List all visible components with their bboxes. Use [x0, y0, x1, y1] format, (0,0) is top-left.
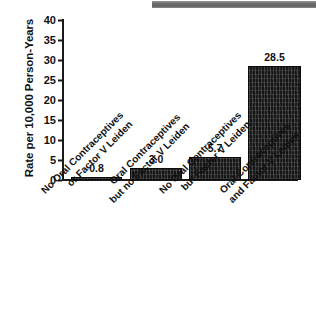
y-tick-mark [58, 159, 62, 161]
y-tick-mark [58, 139, 62, 141]
y-tick-label: 20 [44, 95, 58, 106]
y-tick-20: 20 [44, 95, 62, 106]
y-tick-25: 25 [44, 75, 62, 86]
y-tick-35: 35 [44, 35, 62, 46]
y-tick-10: 10 [44, 135, 62, 146]
y-tick-label: 30 [44, 55, 58, 66]
y-tick-label: 25 [44, 75, 58, 86]
y-tick-label: 35 [44, 35, 58, 46]
y-tick-15: 15 [44, 115, 62, 126]
y-tick-40: 40 [44, 15, 62, 26]
y-tick-mark [58, 59, 62, 61]
y-axis-label: Rate per 10,000 Person-Years [23, 3, 35, 193]
y-tick-mark [58, 119, 62, 121]
y-tick-30: 30 [44, 55, 62, 66]
y-tick-mark [58, 79, 62, 81]
gray-scan-band [152, 1, 316, 8]
y-tick-label: 40 [44, 15, 58, 26]
y-tick-label: 5 [50, 155, 58, 166]
y-tick-mark [58, 99, 62, 101]
bar-value-label: 28.5 [264, 51, 284, 63]
bar-chart-figure: Rate per 10,000 Person-Years 0 5 10 15 2… [0, 0, 316, 311]
y-tick-mark [58, 19, 62, 21]
y-tick-5: 5 [50, 155, 62, 166]
y-tick-label: 10 [44, 135, 58, 146]
y-tick-label: 15 [44, 115, 58, 126]
y-tick-mark [58, 39, 62, 41]
